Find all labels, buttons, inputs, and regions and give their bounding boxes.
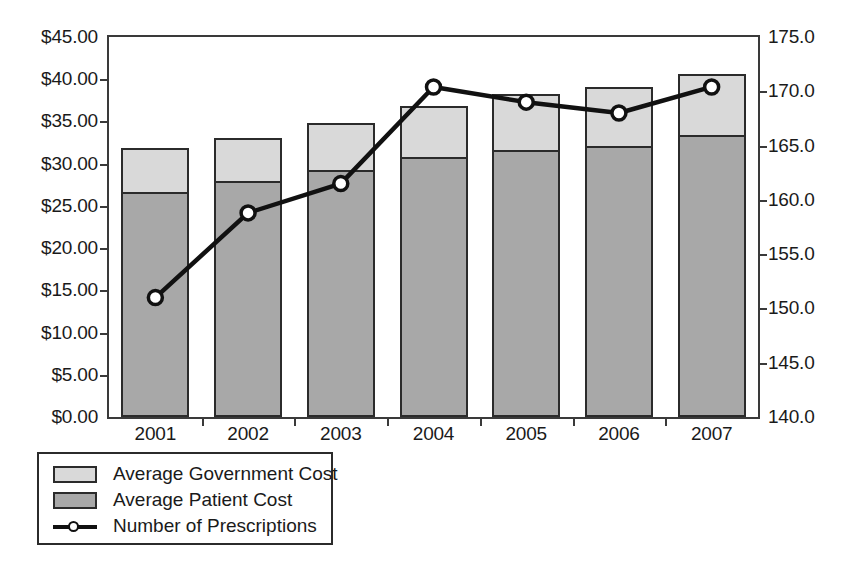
right-axis-tick-170: 170.0 [768, 81, 815, 100]
tick-mark-x [573, 417, 575, 426]
left-axis-tick-0: $0.00 [6, 407, 98, 426]
x-axis-label-2004: 2004 [384, 424, 484, 443]
legend-swatch-patient-icon [53, 492, 97, 509]
legend-item-government: Average Government Cost [39, 461, 331, 487]
tick-mark-right [758, 308, 767, 310]
left-axis-tick-45: $45.00 [6, 27, 98, 46]
legend-label-prescriptions: Number of Prescriptions [113, 515, 317, 537]
prescriptions-line-series [109, 37, 758, 417]
x-axis-label-2007: 2007 [662, 424, 762, 443]
tick-mark-x [387, 417, 389, 426]
right-axis-tick-175: 175.0 [768, 27, 815, 46]
legend-item-prescriptions: Number of Prescriptions [39, 513, 331, 539]
right-axis-tick-140: 140.0 [768, 407, 815, 426]
tick-mark-right [758, 254, 767, 256]
x-axis-label-2002: 2002 [198, 424, 298, 443]
left-axis-tick-35: $35.00 [6, 111, 98, 130]
prescriptions-line-path [155, 87, 711, 298]
x-axis-label-2003: 2003 [291, 424, 391, 443]
prescriptions-marker-2005 [519, 95, 533, 109]
tick-mark-left [100, 333, 109, 335]
prescriptions-marker-2002 [241, 206, 255, 220]
tick-mark-left [100, 79, 109, 81]
prescription-cost-chart: $0.00$5.00$10.00$15.00$20.00$25.00$30.00… [0, 0, 858, 575]
legend-swatch-government-icon [53, 466, 97, 483]
right-axis-tick-165: 165.0 [768, 136, 815, 155]
prescriptions-marker-2007 [705, 80, 719, 94]
tick-mark-x [480, 417, 482, 426]
left-axis-tick-40: $40.00 [6, 69, 98, 88]
tick-mark-right [758, 363, 767, 365]
legend-item-patient: Average Patient Cost [39, 487, 331, 513]
plot-inner [109, 37, 758, 417]
legend-label-government: Average Government Cost [113, 463, 338, 485]
prescriptions-marker-2001 [148, 291, 162, 305]
tick-mark-right [758, 146, 767, 148]
tick-mark-right [758, 200, 767, 202]
tick-mark-left [100, 375, 109, 377]
legend-swatch-line-marker-icon [53, 518, 97, 535]
right-axis-tick-155: 155.0 [768, 244, 815, 263]
left-axis-tick-20: $20.00 [6, 238, 98, 257]
right-axis-tick-160: 160.0 [768, 190, 815, 209]
left-axis-tick-25: $25.00 [6, 196, 98, 215]
chart-legend: Average Government Cost Average Patient … [37, 452, 333, 545]
tick-mark-x [294, 417, 296, 426]
left-axis-tick-30: $30.00 [6, 154, 98, 173]
prescriptions-marker-2003 [334, 177, 348, 191]
right-axis-tick-145: 145.0 [768, 353, 815, 372]
tick-mark-x [665, 417, 667, 426]
tick-mark-left [100, 248, 109, 250]
left-axis-tick-10: $10.00 [6, 323, 98, 342]
tick-mark-x [202, 417, 204, 426]
legend-label-patient: Average Patient Cost [113, 489, 292, 511]
tick-mark-left [100, 290, 109, 292]
tick-mark-left [100, 121, 109, 123]
tick-mark-right [758, 91, 767, 93]
right-axis-tick-150: 150.0 [768, 298, 815, 317]
tick-mark-left [100, 206, 109, 208]
x-axis-label-2006: 2006 [569, 424, 669, 443]
x-axis-label-2005: 2005 [476, 424, 576, 443]
left-axis-tick-15: $15.00 [6, 280, 98, 299]
x-axis-label-2001: 2001 [105, 424, 205, 443]
prescriptions-marker-2004 [427, 80, 441, 94]
tick-mark-left [100, 164, 109, 166]
plot-area [107, 35, 760, 419]
prescriptions-marker-2006 [612, 106, 626, 120]
left-axis-tick-5: $5.00 [6, 365, 98, 384]
